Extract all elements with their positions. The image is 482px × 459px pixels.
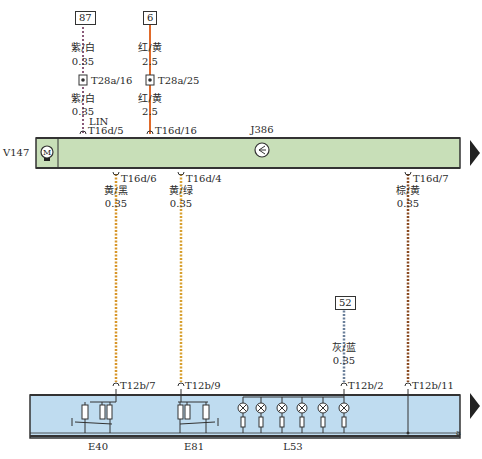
continuation-arrow-top	[470, 140, 480, 166]
connector-label: T28a/25	[158, 75, 199, 86]
pin-label: T16d/16	[155, 125, 197, 136]
pin-label: T12b/11	[412, 380, 454, 391]
wire-color-label: 棕/黄	[396, 185, 419, 196]
ground-label: a	[456, 427, 461, 438]
terminal-6: 6	[143, 11, 157, 25]
component-label-e40: E40	[88, 441, 108, 452]
gauge-label: 0.35	[105, 198, 127, 209]
wire-color-label: 紫/白	[71, 42, 94, 53]
pin-label: T16d/7	[413, 173, 449, 184]
wiring-diagram-canvas: M	[0, 0, 482, 459]
wire-color-label: 紫/白	[71, 93, 94, 104]
pin-label: T12b/2	[348, 380, 384, 391]
gauge-label: 0.35	[72, 56, 94, 67]
wire-color-label: 黄/黑	[104, 185, 127, 196]
wire-color-label: 红/黄	[138, 42, 161, 53]
wire-color-label: 灰/蓝	[332, 342, 355, 353]
terminal-87: 87	[75, 11, 96, 25]
pin-label: T16d/4	[186, 173, 222, 184]
pin-label: T16d/5	[88, 125, 124, 136]
component-label-e81: E81	[184, 441, 204, 452]
continuation-arrow-bottom	[470, 393, 480, 419]
gauge-label: 0.35	[170, 198, 192, 209]
pin-label: T12b/9	[185, 380, 221, 391]
module-label-j386: J386	[250, 124, 273, 135]
component-label-l53: L53	[283, 441, 302, 452]
gauge-label: 2.5	[142, 56, 158, 67]
module-j386	[36, 138, 460, 168]
pin-label: T16d/6	[121, 173, 157, 184]
gauge-label: 2.5	[142, 106, 158, 117]
connector-label: T28a/16	[91, 75, 132, 86]
wire-color-label: 红/黄	[138, 93, 161, 104]
terminal-52: 52	[335, 296, 356, 310]
svg-text:M: M	[43, 148, 51, 157]
control-unit-icon	[255, 143, 269, 157]
pin-label: T12b/7	[120, 380, 156, 391]
gauge-label: 0.35	[333, 355, 355, 366]
wire-color-label: 黄/绿	[169, 185, 192, 196]
gauge-label: 0.35	[397, 198, 419, 209]
motor-label-v147: V147	[3, 147, 29, 158]
